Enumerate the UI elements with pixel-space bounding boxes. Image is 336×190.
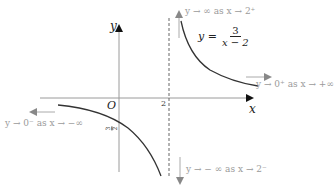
equation-fraction: 3 x − 2 xyxy=(222,25,249,48)
annotation-bottom: y → − ∞ as x → 2⁻ xyxy=(186,164,267,174)
y-axis-label: y xyxy=(110,19,117,33)
origin-label: O xyxy=(107,99,116,112)
annotation-left: y → 0⁻ as x → −∞ xyxy=(5,118,83,128)
y-intercept-denominator: 2 xyxy=(112,127,118,131)
equation-numerator: 3 xyxy=(230,25,240,37)
equation-denominator: x − 2 xyxy=(222,37,249,48)
annotation-right: y → 0⁺ as x → +∞ xyxy=(256,79,334,89)
y-intercept-label: 3 2 xyxy=(105,127,118,131)
x-tick-2: 2 xyxy=(161,99,166,108)
curve-left-branch xyxy=(58,105,161,176)
annotation-top-right: y → ∞ as x → 2⁺ xyxy=(185,6,255,16)
x-axis-label: x xyxy=(249,102,256,116)
function-equation: y = 3 x − 2 xyxy=(198,25,249,48)
equation-lhs: y = xyxy=(198,30,217,43)
graph-canvas xyxy=(0,0,336,190)
